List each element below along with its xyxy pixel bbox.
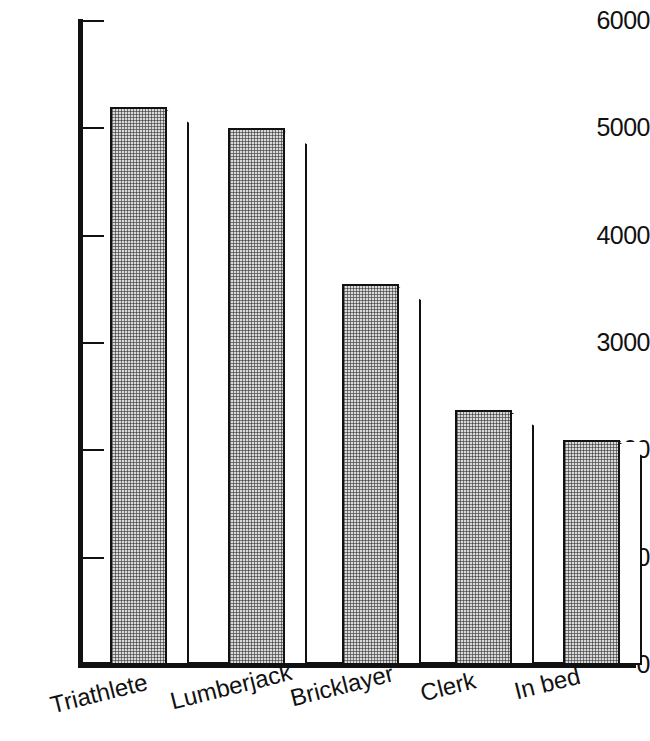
category-label-clerk: Clerk <box>418 668 478 705</box>
bar-side-face <box>283 130 307 665</box>
category-label-bricklayer: Bricklayer <box>288 662 396 711</box>
bar-triathlete <box>110 107 189 665</box>
y-tick-5000 <box>83 127 104 129</box>
category-label-in-bed: In bed <box>512 664 583 703</box>
y-tick-1000 <box>83 557 104 559</box>
bar-side-fill <box>165 109 189 665</box>
y-tick-0 <box>83 664 104 666</box>
bar-front-face <box>110 107 167 665</box>
bar-clerk <box>455 410 534 665</box>
bar-chart: 6000500040003000200010000 TriathleteLumb… <box>0 0 650 741</box>
bar-front-face <box>342 284 399 665</box>
bar-side-face <box>397 286 421 665</box>
bar-in-bed <box>563 440 642 665</box>
bar-side-fill <box>618 442 642 665</box>
bar-side-face <box>165 109 189 665</box>
bar-front-face <box>563 440 620 665</box>
y-tick-label-6000: 6000 <box>582 8 650 33</box>
bar-bricklayer <box>342 284 421 665</box>
y-tick-label-4000: 4000 <box>582 223 650 248</box>
bar-front-face <box>228 128 285 665</box>
y-tick-3000 <box>83 342 104 344</box>
bar-front-face <box>455 410 512 665</box>
bar-side-fill <box>283 130 307 665</box>
y-tick-4000 <box>83 235 104 237</box>
y-tick-label-5000: 5000 <box>582 115 650 140</box>
bar-side-face <box>618 442 642 665</box>
bar-lumberjack <box>228 128 307 665</box>
category-label-triathlete: Triathlete <box>48 670 150 717</box>
bar-side-face <box>510 412 534 665</box>
y-tick-6000 <box>83 20 104 22</box>
bar-side-fill <box>397 286 421 665</box>
bar-side-fill <box>510 412 534 665</box>
y-tick-2000 <box>83 449 104 451</box>
y-tick-label-3000: 3000 <box>582 330 650 355</box>
plot-area: 6000500040003000200010000 TriathleteLumb… <box>0 0 650 741</box>
